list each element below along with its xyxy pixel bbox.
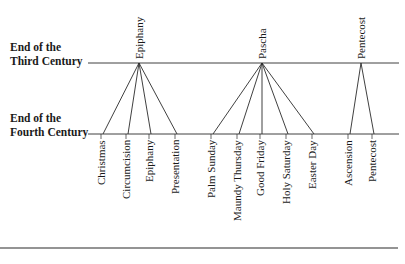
bottom-feast-label: Presentation [169, 140, 181, 194]
branch-line [350, 63, 361, 134]
bottom-feast-label: Palm Sunday [205, 140, 217, 198]
branch-line [213, 63, 262, 134]
bottom-feast-label: Pentecost [366, 140, 378, 182]
top-feast-label: Epiphany [133, 17, 145, 59]
bottom-feast-label: Ascension [342, 140, 354, 186]
top-feast-label: Pascha [256, 28, 268, 59]
feast-tree-diagram [0, 0, 405, 264]
branch-line [262, 63, 314, 134]
top-feast-label: Pentecost [355, 17, 367, 59]
bottom-feast-label: Easter Day [306, 140, 318, 189]
branch-line [361, 63, 374, 134]
bottom-feast-label: Maundy Thursday [231, 140, 243, 221]
bottom-feast-label: Circumcision [120, 140, 132, 199]
bottom-feast-label: Good Friday [254, 140, 266, 196]
bottom-feast-label: Epiphany [143, 140, 155, 182]
bottom-feast-label: Holy Saturday [280, 140, 292, 204]
branch-line [262, 63, 288, 134]
branch-line [239, 63, 262, 134]
bottom-feast-label: Christmas [95, 140, 107, 185]
